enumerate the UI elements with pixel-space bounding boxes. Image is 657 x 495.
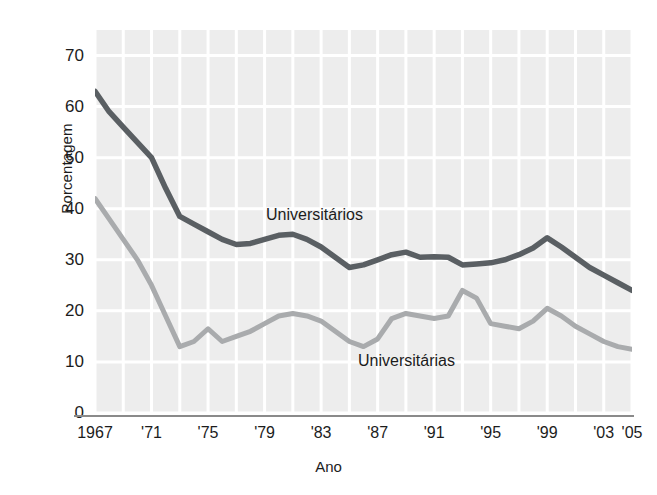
y-tick-label: 0 — [22, 403, 84, 423]
x-tick-label: '99 — [537, 424, 558, 442]
x-tick-label: '05 — [622, 424, 643, 442]
y-tick-label: 10 — [22, 352, 84, 372]
series-line-universitarios — [95, 91, 632, 290]
y-tick-label: 40 — [22, 199, 84, 219]
x-tick-label: '03 — [593, 424, 614, 442]
y-tick-label: 50 — [22, 148, 84, 168]
series-label-universitarias: Universitárias — [358, 352, 455, 370]
x-tick-label: 1967 — [77, 424, 113, 442]
chart-figure: Porcentagem 706050403020100 1967'71'75'7… — [0, 0, 657, 495]
y-tick-label: 70 — [22, 46, 84, 66]
y-tick-label: 20 — [22, 301, 84, 321]
x-tick-label: '87 — [367, 424, 388, 442]
x-tick-label: '95 — [480, 424, 501, 442]
y-tick-label: 60 — [22, 97, 84, 117]
x-tick-label: '79 — [254, 424, 275, 442]
x-tick-label: '75 — [198, 424, 219, 442]
x-tick-label: '71 — [141, 424, 162, 442]
x-tick-label: '83 — [311, 424, 332, 442]
series-line-universitarias — [95, 199, 632, 350]
series-label-universitarios: Universitários — [266, 206, 363, 224]
x-axis-line — [74, 415, 634, 417]
y-tick-label: 30 — [22, 250, 84, 270]
x-axis-title: Ano — [0, 458, 657, 475]
x-tick-label: '91 — [424, 424, 445, 442]
